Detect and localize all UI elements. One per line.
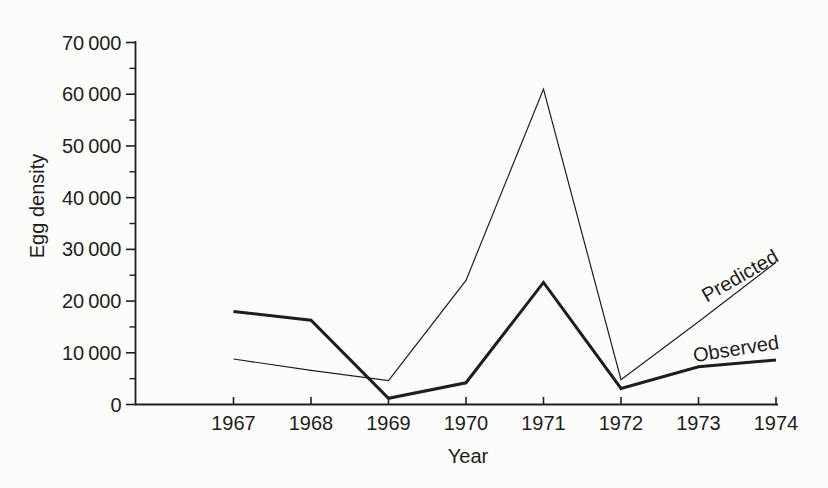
x-tick-label: 1972: [599, 412, 644, 434]
series-line-observed: [234, 282, 777, 398]
y-tick-label: 20 000: [62, 290, 122, 312]
x-tick-label: 1968: [289, 412, 334, 434]
y-tick-label: 70 000: [62, 32, 122, 54]
y-tick-label: 60 000: [62, 83, 122, 105]
chart-figure: 010 00020 00030 00040 00050 00060 00070 …: [0, 0, 828, 488]
x-tick-label: 1971: [521, 412, 566, 434]
x-tick-label: 1974: [754, 412, 799, 434]
x-tick-label: 1967: [211, 412, 256, 434]
axes: [136, 41, 779, 405]
series-line-predicted: [234, 89, 777, 381]
y-tick-label: 30 000: [62, 238, 122, 260]
x-tick-label: 1970: [444, 412, 489, 434]
plot-area: 010 00020 00030 00040 00050 00060 00070 …: [0, 0, 828, 488]
y-tick-label: 50 000: [62, 135, 122, 157]
y-axis-title: Egg density: [26, 154, 49, 259]
x-tick-label: 1969: [366, 412, 411, 434]
y-tick-label: 0: [110, 394, 121, 416]
y-tick-label: 10 000: [62, 342, 122, 364]
x-axis-title: Year: [448, 445, 488, 468]
y-tick-label: 40 000: [62, 187, 122, 209]
x-tick-label: 1973: [676, 412, 721, 434]
